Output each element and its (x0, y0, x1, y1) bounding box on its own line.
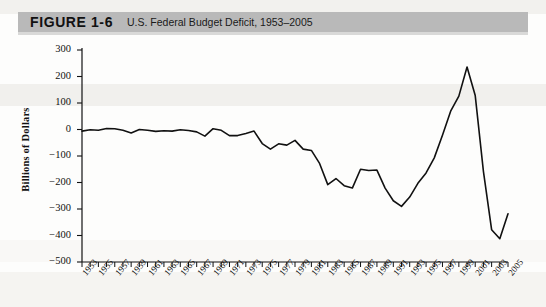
figure-header-bar: FIGURE 1-6 U.S. Federal Budget Deficit, … (18, 12, 528, 32)
chart-area: Billions of Dollars 3002001000−100−200−3… (0, 34, 546, 307)
x-axis-ticks (82, 262, 508, 267)
figure-page: FIGURE 1-6 U.S. Federal Budget Deficit, … (0, 0, 546, 307)
y-axis-ticks (77, 50, 82, 262)
axes-group (82, 48, 508, 262)
figure-number: FIGURE 1-6 (30, 14, 113, 30)
figure-title: U.S. Federal Budget Deficit, 1953–2005 (127, 16, 313, 28)
line-chart-svg (0, 34, 546, 307)
deficit-line (82, 67, 508, 239)
